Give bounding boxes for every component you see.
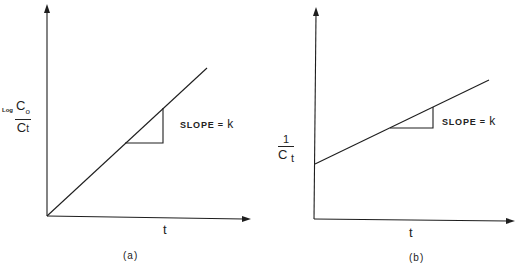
- panel-a-y-label-log: Log: [2, 107, 13, 113]
- panel-b-caption: (b): [409, 252, 424, 263]
- panel-b-x-axis: [314, 219, 508, 221]
- panel-b-y-label-denominator: C t: [278, 147, 294, 163]
- panel-b-y-axis-arrow-icon: [313, 7, 319, 16]
- panel-a-graph: [44, 4, 251, 222]
- panel-b-slope-label: SLOPE = k: [442, 114, 495, 128]
- panel-a-caption: (a): [123, 250, 138, 261]
- panel-b-x-axis-arrow-icon: [506, 218, 515, 224]
- panel-a-y-axis-label: Co Ct: [15, 99, 31, 136]
- figure-canvas: [0, 0, 515, 265]
- panel-b-y-axis: [314, 14, 316, 219]
- panel-a-y-label-denominator: Ct: [15, 120, 31, 136]
- panel-a-y-label-numerator: Co: [15, 99, 31, 120]
- panel-a-x-axis-label: t: [163, 222, 167, 237]
- panel-b-slope-text: SLOPE =: [442, 117, 489, 127]
- panel-a-x-axis: [47, 216, 244, 219]
- panel-a-slope-symbol: k: [227, 117, 233, 131]
- panel-b-slope-symbol: k: [489, 114, 495, 128]
- panel-b-y-label-numerator: 1: [278, 132, 294, 147]
- panel-b-x-axis-label: t: [409, 225, 413, 240]
- panel-a-slope-label: SLOPE = k: [180, 117, 233, 131]
- panel-b-y-axis-label: 1 C t: [278, 132, 294, 163]
- panel-a-data-line: [47, 68, 207, 216]
- panel-a-y-axis-arrow-icon: [44, 4, 50, 13]
- panel-a-x-axis-arrow-icon: [242, 216, 251, 222]
- panel-a-slope-text: SLOPE =: [180, 120, 227, 130]
